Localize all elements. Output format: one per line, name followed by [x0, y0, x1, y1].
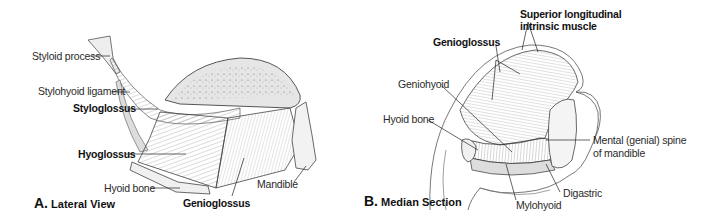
label-digastric: Digastric	[563, 187, 602, 199]
label-genioglossus: Genioglossus	[183, 197, 250, 209]
label-mental-spine-line1: Mental (genial) spine	[593, 134, 686, 146]
median-section-illustration	[350, 0, 703, 223]
label-mandible: Mandible	[257, 178, 298, 190]
label-genioglossus: Genioglossus	[433, 36, 500, 48]
panel-title-lateral-view: A. Lateral View	[34, 195, 115, 211]
label-styloid-process: Styloid process	[32, 50, 100, 62]
label-hyoid-bone: Hyoid bone	[104, 182, 155, 194]
label-stylohyoid-ligament: Stylohyoid ligament	[38, 85, 125, 97]
panel-title-text: Median Section	[381, 196, 462, 208]
label-geniohyoid: Geniohyoid	[398, 78, 449, 90]
label-mylohyoid: Mylohyoid	[516, 199, 561, 211]
label-hyoglossus: Hyoglossus	[78, 148, 136, 160]
panel-letter: B.	[364, 193, 378, 209]
label-superior-longitudinal-line1: Superior longitudinal	[520, 8, 621, 20]
panel-letter: A.	[34, 195, 48, 211]
label-mental-spine-line2: of mandible	[593, 147, 645, 159]
label-hyoid-bone: Hyoid bone	[383, 113, 434, 125]
panel-lateral-view: Styloid process Stylohyoid ligament Styl…	[0, 0, 350, 223]
label-styloglossus: Styloglossus	[73, 102, 136, 114]
panel-title-median-section: B. Median Section	[364, 193, 462, 209]
label-superior-longitudinal-line2: intrinsic muscle	[520, 20, 597, 32]
panel-median-section: Superior longitudinal intrinsic muscle G…	[350, 0, 703, 223]
panel-title-text: Lateral View	[51, 198, 115, 210]
